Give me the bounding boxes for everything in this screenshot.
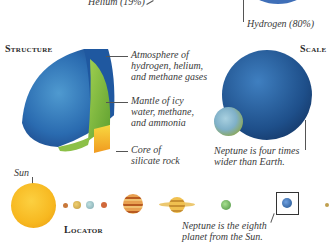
jupiter-locator [123, 194, 143, 214]
hydrogen-label: Hydrogen (80%) [247, 18, 314, 29]
sun-locator [11, 183, 56, 228]
atmosphere-label: Atmosphere of hydrogen, helium, and meth… [131, 49, 207, 82]
uranus-locator [221, 200, 231, 210]
core-label: Core of silicate rock [131, 144, 180, 166]
earth-locator [86, 201, 94, 209]
neptune-cutaway-diagram [18, 45, 118, 155]
sun-label: Sun [14, 167, 29, 178]
helium-label: Helium (19%) [88, 0, 145, 7]
neptune-locator-leader-line [270, 213, 274, 223]
hydrogen-leader-line [243, 0, 244, 22]
atmosphere-leader-line [106, 56, 128, 57]
pluto-locator [325, 203, 329, 207]
scale-leader-line [305, 120, 306, 150]
mantle-label: Mantle of icy water, methane, and ammoni… [131, 95, 194, 128]
saturn-locator [159, 197, 195, 211]
mercury-locator [63, 203, 68, 208]
scale-heading: Scale [300, 43, 327, 54]
venus-locator [73, 201, 81, 209]
locator-caption: Neptune is the eighth planet from the Su… [182, 220, 267, 242]
earth-scale-globe [214, 107, 243, 136]
locator-heading: Locator [64, 224, 103, 235]
mantle-leader-line [106, 102, 128, 103]
scale-caption: Neptune is four times wider than Earth. [214, 145, 299, 167]
neptune-locator [282, 198, 292, 208]
composition-pie [232, 0, 324, 4]
core-leader-line [116, 151, 128, 152]
helium-leader-line [146, 0, 153, 5]
mars-locator [101, 202, 107, 208]
